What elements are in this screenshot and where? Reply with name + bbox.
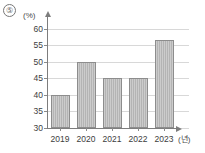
question-number-badge: ⑤ bbox=[3, 4, 16, 17]
bar bbox=[77, 62, 96, 128]
y-tick-label: 35 bbox=[34, 106, 43, 116]
y-axis-line bbox=[47, 16, 48, 128]
y-tick-label: 55 bbox=[34, 40, 43, 50]
x-tick-mark bbox=[138, 128, 139, 131]
x-tick-mark bbox=[60, 128, 61, 131]
x-tick-label: 2020 bbox=[77, 134, 96, 144]
x-tick-label: 2021 bbox=[103, 134, 122, 144]
y-axis-arrow-icon bbox=[45, 11, 51, 17]
bar bbox=[103, 78, 122, 128]
bar bbox=[129, 78, 148, 128]
y-axis-tick-labels: 30354045505560 bbox=[19, 22, 43, 128]
plot-area bbox=[47, 22, 191, 128]
bar bbox=[155, 40, 174, 128]
y-tick-label: 60 bbox=[34, 24, 43, 34]
y-axis-unit-label: (%) bbox=[23, 11, 35, 20]
x-axis-tick-marks bbox=[47, 128, 191, 132]
y-tick-label: 30 bbox=[34, 123, 43, 133]
y-tick-label: 50 bbox=[34, 57, 43, 67]
bar bbox=[51, 95, 70, 128]
x-tick-mark bbox=[86, 128, 87, 131]
x-tick-mark bbox=[164, 128, 165, 131]
x-tick-mark bbox=[112, 128, 113, 131]
y-tick-label: 40 bbox=[34, 90, 43, 100]
gridline bbox=[47, 29, 189, 30]
x-tick-label: 2019 bbox=[51, 134, 70, 144]
y-tick-label: 45 bbox=[34, 73, 43, 83]
x-tick-label: 2022 bbox=[129, 134, 148, 144]
x-tick-label: 2023 bbox=[155, 134, 174, 144]
chart-screenshot: ⑤ (%) (년) 30354045505560 201920202021202… bbox=[0, 0, 205, 153]
x-axis-tick-labels: 20192020202120222023 bbox=[47, 134, 191, 148]
